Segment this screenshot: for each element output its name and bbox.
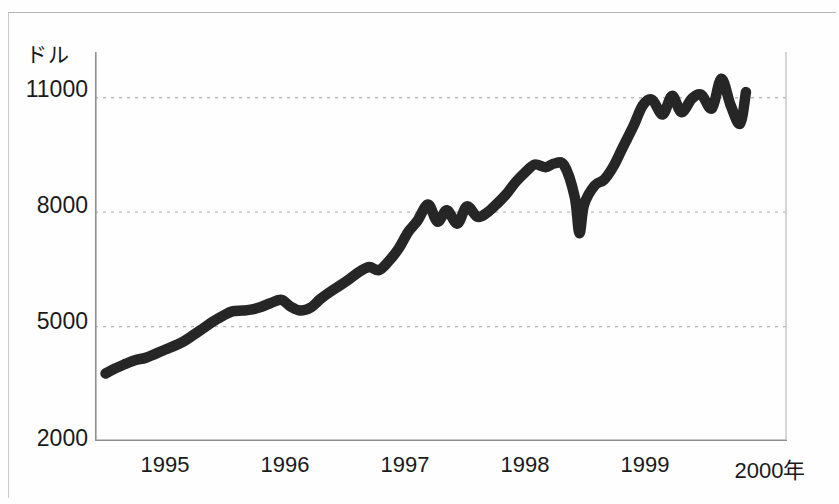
line-chart-svg	[95, 52, 787, 441]
y-tick-label-11000: 11000	[2, 76, 88, 103]
x-tick-label-2000: 2000年	[735, 452, 806, 484]
y-tick-label-8000: 8000	[2, 192, 88, 219]
plot-area	[95, 52, 787, 441]
x-tick-label-1998: 1998	[501, 452, 550, 478]
x-tick-label-1999: 1999	[621, 452, 670, 478]
data-series-line	[106, 79, 746, 374]
x-tick-label-1997: 1997	[381, 452, 430, 478]
chart-plot-container: ドル 11000 8000 5000 2000 1995 1996 1997 1…	[0, 0, 839, 504]
chart-figure: ドル 11000 8000 5000 2000 1995 1996 1997 1…	[0, 0, 839, 504]
y-tick-label-5000: 5000	[2, 308, 88, 335]
y-axis-tick-labels: 11000 8000 5000 2000	[0, 0, 88, 504]
y-tick-label-2000: 2000	[2, 425, 88, 452]
x-tick-label-1995: 1995	[141, 452, 190, 478]
x-tick-label-1996: 1996	[261, 452, 310, 478]
